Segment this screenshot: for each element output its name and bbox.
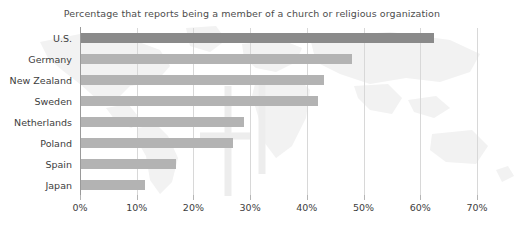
bar-germany[interactable]	[80, 54, 352, 64]
bar-sweden[interactable]	[80, 96, 318, 106]
category-label: Japan	[0, 175, 72, 196]
x-tick	[477, 195, 478, 200]
x-tick-label: 10%	[126, 202, 147, 213]
x-tick	[420, 195, 421, 200]
category-label: New Zealand	[0, 70, 72, 91]
x-tick	[364, 195, 365, 200]
x-axis: 0%10%20%30%40%50%60%70%	[80, 195, 477, 225]
gridline-70	[477, 28, 478, 195]
bar-u-s[interactable]	[80, 33, 434, 43]
x-tick-label: 70%	[466, 202, 487, 213]
bar-japan[interactable]	[80, 180, 145, 190]
category-axis-labels: U.S.GermanyNew ZealandSwedenNetherlandsP…	[0, 28, 76, 195]
x-tick	[307, 195, 308, 200]
bar-poland[interactable]	[80, 138, 233, 148]
plot-area	[80, 28, 477, 195]
x-tick-label: 0%	[72, 202, 87, 213]
x-tick-label: 20%	[183, 202, 204, 213]
x-tick	[80, 195, 81, 200]
x-tick-label: 30%	[240, 202, 261, 213]
x-tick-label: 40%	[296, 202, 317, 213]
x-tick-label: 50%	[353, 202, 374, 213]
category-label: Spain	[0, 154, 72, 175]
category-label: Sweden	[0, 91, 72, 112]
y-axis-line	[80, 27, 81, 196]
bar-series	[80, 28, 477, 195]
bar-new-zealand[interactable]	[80, 75, 324, 85]
category-label: U.S.	[0, 28, 72, 49]
x-tick	[193, 195, 194, 200]
bar-spain[interactable]	[80, 159, 176, 169]
x-tick	[137, 195, 138, 200]
bar-netherlands[interactable]	[80, 117, 244, 127]
category-label: Germany	[0, 49, 72, 70]
category-label: Poland	[0, 133, 72, 154]
x-tick-label: 60%	[410, 202, 431, 213]
chart-title: Percentage that reports being a member o…	[0, 8, 504, 19]
x-tick	[250, 195, 251, 200]
category-label: Netherlands	[0, 112, 72, 133]
